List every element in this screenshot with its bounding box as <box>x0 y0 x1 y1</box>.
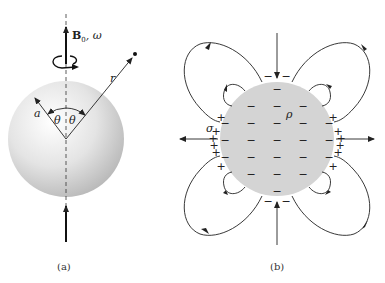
surface-plus-sign: + <box>211 146 220 159</box>
interior-minus-sign: − <box>246 134 255 147</box>
surface-minus-sign: − <box>263 70 272 83</box>
interior-minus-sign: − <box>272 134 281 147</box>
surface-plus-sign: + <box>216 111 225 124</box>
caption-b: (b) <box>270 261 284 272</box>
interior-minus-sign: − <box>272 185 281 198</box>
interior-minus-sign: − <box>272 151 281 164</box>
interior-minus-sign: − <box>298 168 307 181</box>
surface-minus-sign: − <box>263 195 272 208</box>
interior-minus-sign: − <box>246 117 255 130</box>
figure: B0, ω a r θ θ (a) <box>0 0 385 283</box>
interior-minus-sign: − <box>246 100 255 113</box>
interior-minus-sign: − <box>272 168 281 181</box>
caption-a: (a) <box>57 261 71 272</box>
arrow-head <box>223 190 228 195</box>
interior-minus-sign: − <box>272 100 281 113</box>
distance-label: r <box>110 72 116 85</box>
surface-plus-sign: + <box>216 160 225 173</box>
arrow-head <box>361 44 367 51</box>
panel-b: −−−−−−−−−−−−−−−−−−−−−−−−−−−++++++++++++ … <box>180 33 374 272</box>
angle-label-left: θ <box>54 114 61 127</box>
surface-plus-sign: + <box>333 146 342 159</box>
interior-minus-sign: − <box>246 151 255 164</box>
interior-minus-sign: − <box>324 134 333 147</box>
arrow-head <box>205 42 211 50</box>
field-point <box>133 52 137 56</box>
interior-minus-sign: − <box>298 100 307 113</box>
field-label: B0, ω <box>72 29 102 44</box>
interior-minus-sign: − <box>298 117 307 130</box>
surface-plus-sign: + <box>328 111 337 124</box>
interior-minus-sign: − <box>246 168 255 181</box>
interior-minus-sign: − <box>298 134 307 147</box>
surface-minus-sign: − <box>281 195 290 208</box>
volume-charge-label: ρ <box>285 108 293 121</box>
charge-signs: −−−−−−−−−−−−−−−−−−−−−−−−−−−++++++++++++ <box>208 70 345 208</box>
angle-label-right: θ <box>69 114 76 127</box>
arrow-head <box>201 228 209 234</box>
interior-minus-sign: − <box>298 151 307 164</box>
panel-a: B0, ω a r θ θ (a) <box>8 14 137 272</box>
interior-minus-sign: − <box>220 134 229 147</box>
interior-minus-sign: − <box>272 117 281 130</box>
surface-minus-sign: − <box>281 70 290 83</box>
surface-charge-label: σ <box>206 122 214 135</box>
radius-label: a <box>34 107 41 120</box>
interior-minus-sign: − <box>272 83 281 96</box>
surface-plus-sign: + <box>328 160 337 173</box>
